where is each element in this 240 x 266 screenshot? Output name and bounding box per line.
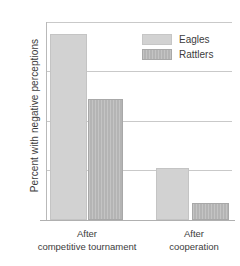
legend-swatch-rattlers xyxy=(142,49,172,60)
legend: Eagles Rattlers xyxy=(142,32,213,62)
legend-label-rattlers: Rattlers xyxy=(179,49,213,60)
y-axis-title: Percent with negative perceptions xyxy=(29,16,40,216)
legend-item-rattlers: Rattlers xyxy=(142,47,213,62)
x-category-label-0-line2: competitive tournament xyxy=(22,241,152,254)
bar-eagles-after-cooperation xyxy=(156,168,189,220)
x-category-label-0-line1: After xyxy=(22,228,152,241)
x-axis-line xyxy=(40,220,235,221)
gridline-80 xyxy=(47,22,232,23)
x-category-label-0: After competitive tournament xyxy=(22,228,152,253)
bar-rattlers-after-competitive-tournament xyxy=(88,99,123,220)
x-category-label-1-line2: cooperation xyxy=(152,241,236,254)
legend-label-eagles: Eagles xyxy=(179,34,210,45)
x-category-label-1-line1: After xyxy=(152,228,236,241)
bar-rattlers-after-cooperation xyxy=(192,203,229,220)
x-category-label-1: After cooperation xyxy=(152,228,236,253)
legend-swatch-eagles xyxy=(142,34,172,45)
bar-eagles-after-competitive-tournament xyxy=(50,34,87,220)
bar-chart: Percent with negative perceptions 80 60 … xyxy=(0,0,240,266)
legend-item-eagles: Eagles xyxy=(142,32,213,47)
